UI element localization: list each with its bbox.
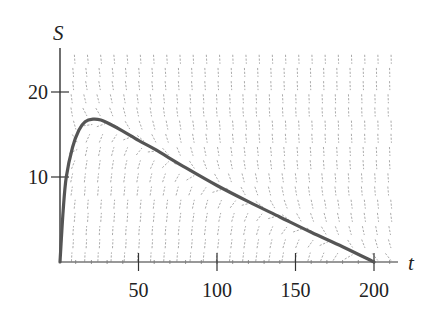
x-tick-label: 150 <box>281 279 311 301</box>
x-tick-label: 200 <box>359 279 389 301</box>
x-axis-label: t <box>408 251 415 275</box>
tick-labels: 501001502001020 <box>28 81 389 301</box>
y-tick-label: 20 <box>28 81 48 103</box>
slope-field-chart: 501001502001020 t S <box>0 0 431 317</box>
y-tick-label: 10 <box>28 166 48 188</box>
y-axis-label: S <box>53 21 64 45</box>
direction-field <box>69 55 392 262</box>
x-tick-label: 100 <box>202 279 232 301</box>
axes <box>51 48 398 271</box>
x-tick-label: 50 <box>129 279 149 301</box>
